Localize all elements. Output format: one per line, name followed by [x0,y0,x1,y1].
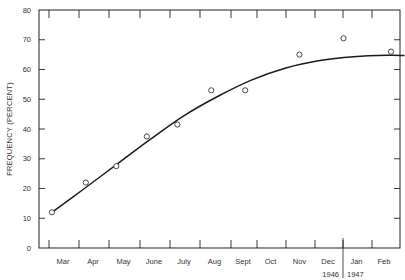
x-axis: MarAprMayJuneJulyAugSeptOctNovDecJanFeb [49,10,390,266]
x-tick-label: Oct [265,257,278,266]
data-point [209,88,214,93]
year-label: 1947 [347,270,364,279]
data-point [175,122,180,127]
y-tick-label: 40 [23,125,31,134]
x-tick-label: Apr [87,257,99,266]
plot-frame [39,10,400,248]
x-tick-label: Dec [321,257,335,266]
y-tick-label: 50 [23,95,31,104]
y-axis-title: FREQUENCY (PERCENT) [5,82,14,176]
y-tick-label: 0 [27,244,31,253]
data-point [341,36,346,41]
x-tick-label: Mar [57,257,70,266]
x-tick-label: May [116,257,130,266]
data-point [83,180,88,185]
x-tick-label: Feb [378,257,391,266]
data-point [114,164,119,169]
frequency-chart: 01020304050607080 MarAprMayJuneJulyAugSe… [0,0,405,280]
data-point [388,49,393,54]
y-tick-label: 80 [23,6,31,15]
data-point [49,210,54,215]
y-tick-label: 30 [23,154,31,163]
y-tick-label: 70 [23,35,31,44]
y-tick-label: 60 [23,65,31,74]
data-point [243,88,248,93]
data-point [144,134,149,139]
x-tick-label: July [177,257,191,266]
x-tick-label: June [146,257,162,266]
data-points [49,36,393,215]
data-point [297,52,302,57]
y-tick-label: 10 [23,214,31,223]
y-axis: 01020304050607080 [23,6,400,253]
x-tick-label: Nov [293,257,307,266]
x-tick-label: Aug [208,257,221,266]
x-tick-label: Jan [350,257,362,266]
y-tick-label: 20 [23,184,31,193]
year-label: 1946 [322,270,339,279]
x-tick-label: Sept [235,257,251,266]
fitted-curve [52,55,405,212]
